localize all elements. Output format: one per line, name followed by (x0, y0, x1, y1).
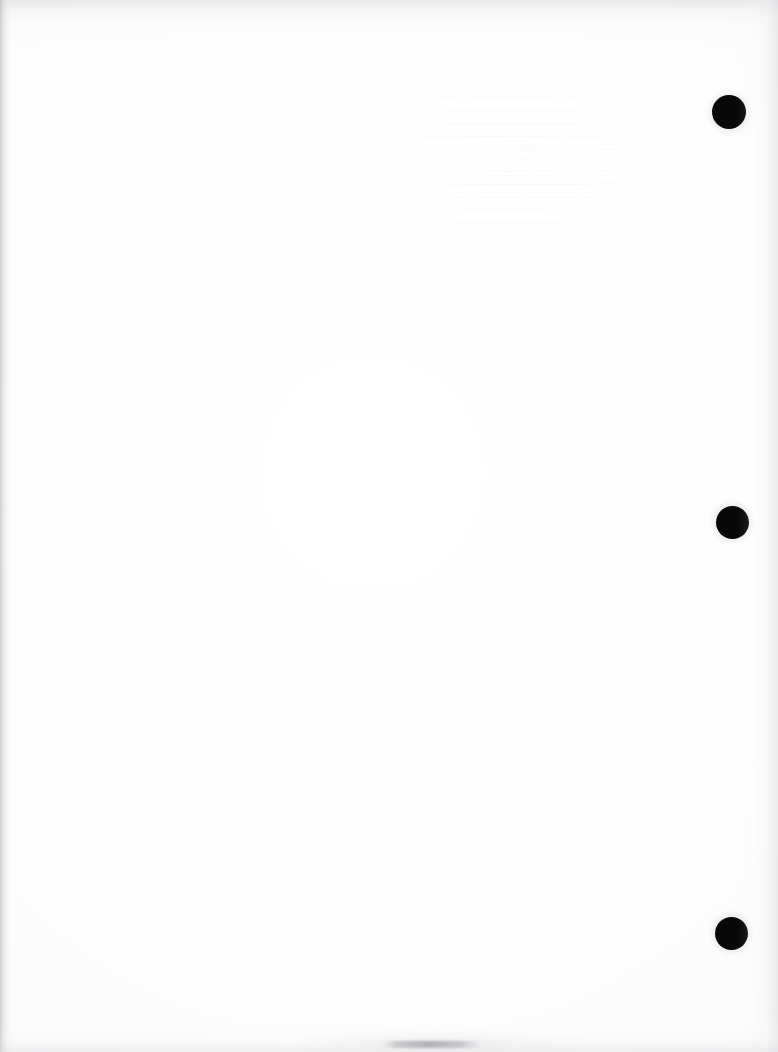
paper-surface (0, 0, 778, 1052)
registration-dot-middle (716, 506, 749, 539)
registration-dot-top (712, 95, 746, 129)
scanned-page (0, 0, 778, 1052)
registration-dot-bottom (715, 917, 748, 950)
